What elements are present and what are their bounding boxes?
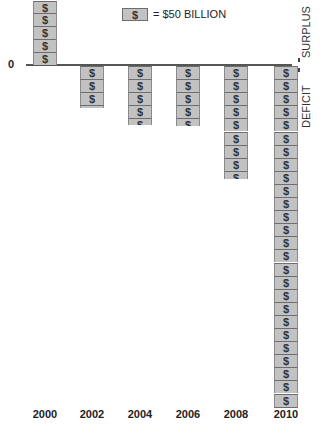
dollar-block: $ [274, 66, 298, 79]
dollar-block: $ [274, 394, 298, 407]
legend-label: = $50 BILLION [153, 8, 226, 20]
dollar-block: $ [224, 118, 248, 131]
dollar-block: $ [274, 145, 298, 158]
divider-dash [298, 68, 300, 72]
dollar-block: $ [224, 132, 248, 145]
x-label-2010: 2010 [266, 408, 306, 420]
dollar-block: $ [274, 380, 298, 393]
dollar-block: $ [274, 118, 298, 131]
dollar-block: $ [274, 171, 298, 184]
dollar-block: $ [274, 184, 298, 197]
dollar-block: $ [274, 236, 298, 249]
dollar-block: $ [128, 118, 152, 125]
zero-axis-line [26, 64, 292, 66]
dollar-block: $ [176, 118, 200, 126]
zero-label: 0 [8, 58, 14, 70]
x-label-2002: 2002 [72, 408, 112, 420]
dollar-block: $ [274, 328, 298, 341]
dollar-block: $ [274, 341, 298, 354]
dollar-block: $ [128, 92, 152, 105]
dollar-block: $ [274, 197, 298, 210]
dollar-block: $ [224, 92, 248, 105]
dollar-block: $ [33, 52, 57, 65]
dollar-block: $ [128, 79, 152, 92]
dollar-block: $ [274, 249, 298, 262]
dollar-block: $ [274, 79, 298, 92]
dollar-block: $ [274, 276, 298, 289]
dollar-block: $ [224, 66, 248, 79]
dollar-block: $ [224, 105, 248, 118]
dollar-block: $ [176, 105, 200, 118]
dollar-block: $ [274, 158, 298, 171]
dollar-block: $ [274, 223, 298, 236]
dollar-block: $ [274, 263, 298, 276]
x-label-2006: 2006 [168, 408, 208, 420]
deficit-label: DEFICIT [300, 85, 312, 128]
dollar-block: $ [274, 210, 298, 223]
dollar-block: $ [33, 26, 57, 39]
divider-dash [298, 58, 300, 62]
x-label-2000: 2000 [25, 408, 65, 420]
dollar-block: $ [33, 1, 57, 13]
dollar-block: $ [224, 171, 248, 179]
x-label-2008: 2008 [216, 408, 256, 420]
dollar-block: $ [224, 158, 248, 171]
dollar-block: $ [80, 66, 104, 79]
dollar-block: $ [176, 66, 200, 79]
dollar-block: $ [274, 92, 298, 105]
dollar-block: $ [274, 289, 298, 302]
x-label-2004: 2004 [120, 408, 160, 420]
dollar-block: $ [274, 315, 298, 328]
dollar-block: $ [128, 105, 152, 118]
dollar-block: $ [274, 302, 298, 315]
dollar-block: $ [128, 66, 152, 79]
surplus-label: SURPLUS [300, 6, 312, 58]
dollar-block: $ [33, 39, 57, 52]
dollar-block: $ [224, 79, 248, 92]
dollar-block: $ [274, 132, 298, 145]
dollar-block: $ [80, 105, 104, 108]
legend-dollar-icon: $ [122, 8, 148, 21]
dollar-block: $ [33, 13, 57, 26]
dollar-block: $ [224, 145, 248, 158]
dollar-block: $ [274, 354, 298, 367]
dollar-block: $ [176, 92, 200, 105]
dollar-block: $ [176, 79, 200, 92]
dollar-block: $ [274, 105, 298, 118]
dollar-block: $ [274, 367, 298, 380]
dollar-block: $ [80, 79, 104, 92]
dollar-block: $ [80, 92, 104, 105]
